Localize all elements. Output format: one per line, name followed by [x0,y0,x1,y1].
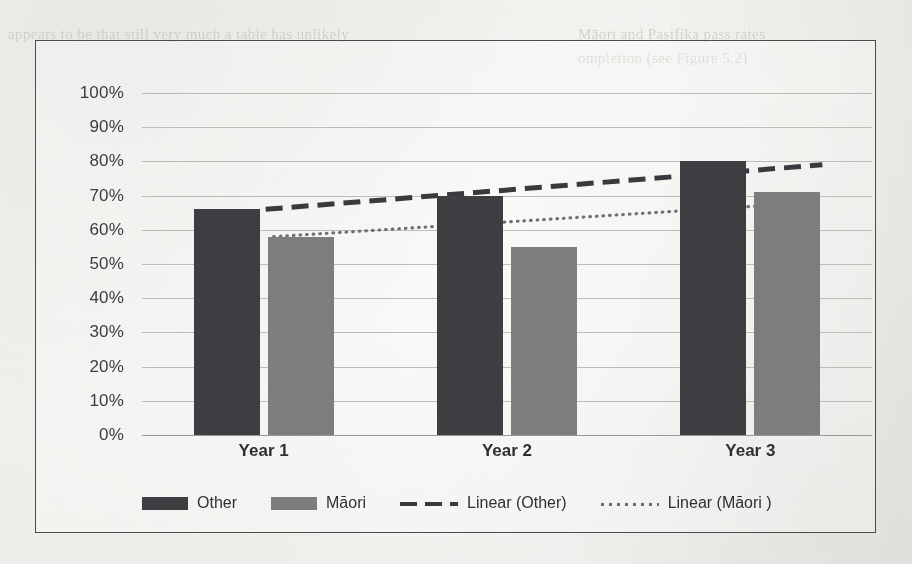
legend-label: Other [197,494,237,512]
plot-area [142,93,872,435]
legend-item-2[interactable]: Māori [271,494,366,512]
legend-item-4[interactable]: Linear (Māori ) [601,494,772,512]
legend-marker-dotted-line-icon [601,497,659,509]
chart-frame: 0%10%20%30%40%50%60%70%80%90%100% Year 1… [35,40,876,533]
legend-marker-bar-dark-icon [142,497,188,510]
x-label-year-2: Year 2 [482,441,532,461]
chart-legend: OtherMāoriLinear (Other)Linear (Māori ) [142,486,872,520]
chart-plot-wrapper: 0%10%20%30%40%50%60%70%80%90%100% Year 1… [36,41,875,532]
y-tick-40: 40% [89,288,124,308]
axis-baseline [142,435,872,436]
legend-item-1[interactable]: Other [142,494,237,512]
legend-item-3[interactable]: Linear (Other) [400,494,567,512]
y-tick-90: 90% [89,117,124,137]
legend-label: Linear (Māori ) [668,494,772,512]
legend-label: Linear (Other) [467,494,567,512]
bar-other-cat2 [437,196,503,435]
bar-mori-cat3 [754,192,820,435]
y-tick-30: 30% [89,322,124,342]
bar-other-cat1 [194,209,260,435]
legend-marker-dashed-line-icon [400,497,458,509]
y-tick-10: 10% [89,391,124,411]
bar-other-cat3 [680,161,746,435]
x-label-year-3: Year 3 [725,441,775,461]
y-tick-0: 0% [99,425,124,445]
y-axis-tick-labels: 0%10%20%30%40%50%60%70%80%90%100% [36,41,142,532]
y-tick-50: 50% [89,254,124,274]
bar-mori-cat1 [268,237,334,435]
x-axis-category-labels: Year 1Year 2Year 3 [142,441,872,471]
y-tick-60: 60% [89,220,124,240]
bar-mori-cat2 [511,247,577,435]
legend-label: Māori [326,494,366,512]
y-tick-20: 20% [89,357,124,377]
y-tick-100: 100% [80,83,124,103]
legend-marker-bar-gray-icon [271,497,317,510]
y-tick-80: 80% [89,151,124,171]
y-tick-70: 70% [89,186,124,206]
x-label-year-1: Year 1 [239,441,289,461]
